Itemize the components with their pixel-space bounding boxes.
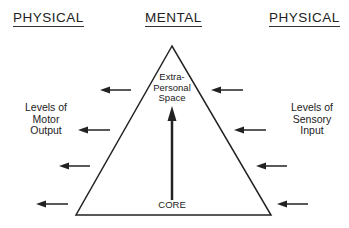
diagram: PHYSICAL MENTAL PHYSICAL Lev (0, 0, 349, 228)
label-line: Extra- (142, 72, 202, 83)
motor-output-label: Levels of Motor Output (14, 102, 78, 137)
label-line: Levels of (280, 102, 344, 114)
extra-personal-space-label: Extra- Personal Space (142, 72, 202, 104)
label-line: Input (280, 125, 344, 137)
label-line: Space (142, 93, 202, 104)
label-line: Levels of (14, 102, 78, 114)
core-label: CORE (152, 199, 192, 211)
core-arrow (168, 106, 177, 200)
sensory-input-label: Levels of Sensory Input (280, 102, 344, 137)
label-line: Output (14, 125, 78, 137)
